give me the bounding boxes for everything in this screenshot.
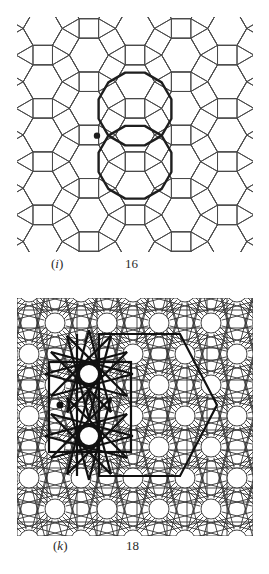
marker-dot [94, 132, 100, 138]
figure-k: (k) 18 [0, 290, 269, 574]
star-center-circle [79, 426, 99, 446]
figure-number-label: 16 [125, 256, 138, 272]
star-center-circle [79, 364, 99, 384]
figure-letter-label: (i) [51, 256, 63, 272]
figure-i: (i) 16 [0, 0, 269, 290]
figure-number-label: 18 [126, 538, 139, 554]
marker-dot [57, 402, 64, 409]
tiling-lines [17, 17, 253, 252]
highlight-outline [99, 73, 172, 199]
figure-letter-label: (k) [53, 538, 67, 554]
tiling-diagram-k [17, 298, 253, 536]
tiling-diagram-i [17, 17, 253, 252]
